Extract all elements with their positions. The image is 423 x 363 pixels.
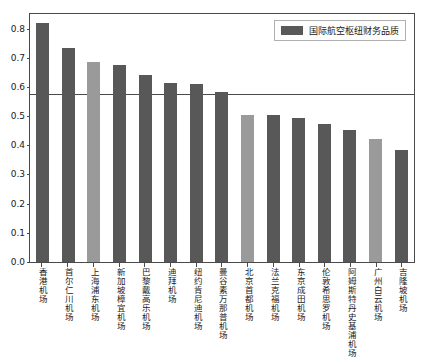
x-tick-label: 阿姆斯特丹史基浦机场 (345, 268, 356, 358)
x-tick-label: 吉隆坡机场 (396, 268, 407, 313)
x-tick-label: 曼谷素万那普机场 (216, 268, 227, 340)
bar (164, 83, 177, 262)
x-tick-label: 东京成田机场 (294, 268, 305, 322)
x-tick-label: 巴黎戴高乐机场 (139, 268, 150, 331)
x-tick-mark (93, 263, 94, 267)
legend-label: 国际航空枢纽财务品质 (309, 24, 399, 37)
bar-series (30, 14, 414, 262)
bar (318, 124, 331, 262)
x-tick-label: 伦敦希思罗机场 (319, 268, 330, 331)
x-tick-label: 法兰克福机场 (268, 268, 279, 322)
x-tick-mark (119, 263, 120, 267)
x-label-slot: 香港机场 (35, 268, 48, 363)
bar (215, 92, 228, 262)
x-tick-mark (144, 263, 145, 267)
plot-area: 0.00.10.20.30.40.50.60.70.8 国际航空枢纽财务品质 (29, 13, 415, 263)
x-label-slot: 法兰克福机场 (267, 268, 280, 363)
x-label-slot: 吉隆坡机场 (395, 268, 408, 363)
x-tick-mark (221, 263, 222, 267)
x-label-slot: 伦敦希思罗机场 (318, 268, 331, 363)
x-axis-ticks (29, 263, 415, 267)
x-tick-label: 纽约肯尼迪机场 (191, 268, 202, 331)
bar (36, 23, 49, 262)
x-label-slot: 上海浦东机场 (87, 268, 100, 363)
x-tick-label: 香港机场 (36, 268, 47, 304)
x-tick-mark (247, 263, 248, 267)
x-tick-mark (273, 263, 274, 267)
x-tick-mark (401, 263, 402, 267)
x-label-slot: 新加坡樟宜机场 (113, 268, 126, 363)
bar (87, 62, 100, 262)
legend-swatch-icon (281, 26, 303, 35)
x-label-slot: 首尔仁川机场 (61, 268, 74, 363)
x-tick-mark (67, 263, 68, 267)
bar (241, 115, 254, 262)
x-label-slot: 巴黎戴高乐机场 (138, 268, 151, 363)
x-tick-label: 上海浦东机场 (88, 268, 99, 322)
bar (267, 115, 280, 262)
x-label-slot: 北京首都机场 (241, 268, 254, 363)
bar (343, 130, 356, 262)
x-tick-label: 北京首都机场 (242, 268, 253, 322)
bar (190, 84, 203, 262)
bar (369, 139, 382, 262)
x-tick-mark (299, 263, 300, 267)
x-tick-mark (324, 263, 325, 267)
x-tick-label: 新加坡樟宜机场 (114, 268, 125, 331)
bar (139, 75, 152, 262)
x-label-slot: 东京成田机场 (293, 268, 306, 363)
x-tick-mark (170, 263, 171, 267)
bar (62, 48, 75, 262)
chart-figure: 0.00.10.20.30.40.50.60.70.8 国际航空枢纽财务品质 香… (0, 0, 423, 363)
bar (113, 65, 126, 262)
x-tick-mark (41, 263, 42, 267)
x-tick-label: 广州白云机场 (371, 268, 382, 322)
x-axis-labels: 香港机场首尔仁川机场上海浦东机场新加坡樟宜机场巴黎戴高乐机场迪拜机场纽约肯尼迪机… (29, 268, 415, 363)
x-tick-mark (376, 263, 377, 267)
x-label-slot: 纽约肯尼迪机场 (190, 268, 203, 363)
legend[interactable]: 国际航空枢纽财务品质 (274, 20, 406, 41)
bar (292, 118, 305, 262)
x-label-slot: 阿姆斯特丹史基浦机场 (344, 268, 357, 363)
x-label-slot: 广州白云机场 (370, 268, 383, 363)
bar (395, 150, 408, 262)
x-tick-label: 首尔仁川机场 (62, 268, 73, 322)
x-label-slot: 迪拜机场 (164, 268, 177, 363)
x-label-slot: 曼谷素万那普机场 (215, 268, 228, 363)
x-tick-mark (350, 263, 351, 267)
x-tick-label: 迪拜机场 (165, 268, 176, 304)
x-tick-mark (196, 263, 197, 267)
